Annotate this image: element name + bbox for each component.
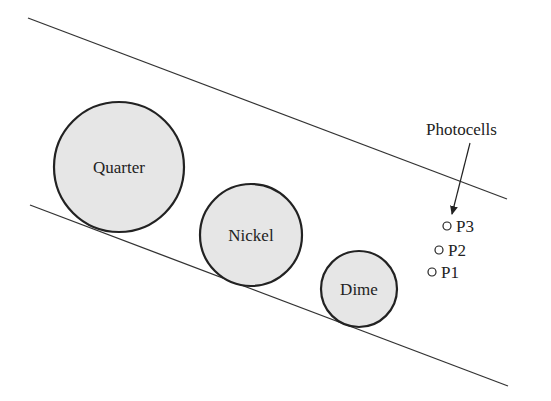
photocell-p2: P2	[435, 241, 466, 260]
coin-label: Nickel	[228, 226, 274, 245]
photocell-label: P2	[448, 241, 466, 260]
photocell-label: P1	[441, 263, 459, 282]
coin-label: Quarter	[93, 158, 145, 177]
photocells-arrow	[452, 143, 470, 214]
photocell-icon	[435, 246, 443, 254]
coin-dime: Dime	[321, 251, 397, 327]
coin-quarter: Quarter	[54, 102, 184, 232]
photocell-p3: P3	[443, 217, 474, 236]
diagram-svg: Quarter Nickel Dime Photocells P3 P2 P1	[0, 0, 551, 401]
coin-nickel: Nickel	[200, 184, 302, 286]
coin-sorter-diagram: Quarter Nickel Dime Photocells P3 P2 P1	[0, 0, 551, 401]
photocell-p1: P1	[428, 263, 459, 282]
coin-label: Dime	[340, 280, 378, 299]
photocell-label: P3	[456, 217, 474, 236]
photocell-icon	[428, 268, 436, 276]
photocell-icon	[443, 222, 451, 230]
photocells-title: Photocells	[426, 120, 497, 139]
